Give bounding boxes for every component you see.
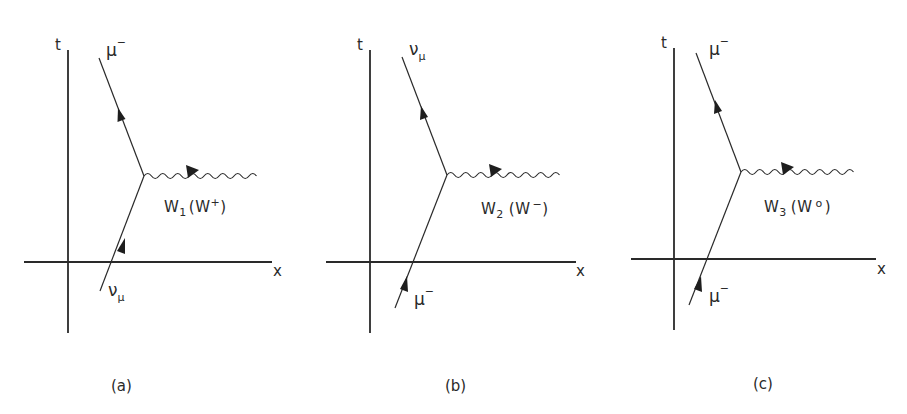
t-axis-label: t [55,36,61,54]
w-boson-wavy-line [144,174,257,179]
boson-label: W2(W−) [481,198,549,221]
feynman-diagram-figure: t x μ− νμ W1(W+) (a) t x νμ μ− W2(W−) (b… [0,0,907,414]
outgoing-particle-label: μ− [106,36,126,60]
panel-caption: (c) [753,375,773,393]
w-boson-wavy-line [741,170,854,175]
boson-label: W3(Wo) [764,197,831,219]
outgoing-fermion-line [696,53,741,172]
boson-label: W1(W+) [164,196,227,219]
panel-caption: (a) [111,377,132,395]
outgoing-particle-label: νμ [409,39,426,63]
arrow-up-icon [118,108,126,122]
w-boson-wavy-line [447,173,560,178]
arrow-up-icon [400,276,408,292]
arrow-up-icon [714,100,722,114]
incoming-fermion-line [100,176,144,291]
incoming-particle-label: νμ [108,280,125,304]
arrow-up-icon [117,238,125,254]
x-axis-label: x [273,262,282,280]
arrow-up-icon [420,106,428,120]
outgoing-particle-label: μ− [709,35,729,59]
t-axis-label: t [661,34,667,52]
panel-c: t x μ− μ− W3(Wo) (c) [631,34,886,393]
panel-b: t x νμ μ− W2(W−) (b) [326,36,585,395]
incoming-particle-label: μ− [414,285,434,309]
x-axis-label: x [576,262,585,280]
panel-a: t x μ− νμ W1(W+) (a) [24,36,282,395]
arrow-right-icon [781,162,794,175]
x-axis-label: x [877,260,886,278]
panel-caption: (b) [445,377,466,395]
incoming-particle-label: μ− [709,282,729,306]
t-axis-label: t [357,36,363,54]
